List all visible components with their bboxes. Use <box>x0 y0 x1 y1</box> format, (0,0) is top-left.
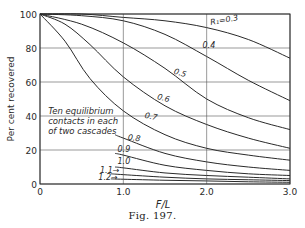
x-tick-label: 1.0 <box>116 187 131 197</box>
curve-R1-0-3 <box>40 14 290 58</box>
curve-0-7 <box>40 14 290 160</box>
y-axis-label: Per cent recovered <box>6 57 16 142</box>
curve-0-8 <box>115 135 290 171</box>
curve-label: 0.9 <box>118 145 131 154</box>
curve-label: 0.5 <box>173 67 188 79</box>
y-tick-label: 40 <box>26 112 38 122</box>
y-tick-label: 20 <box>26 146 38 156</box>
curve-label: 1.0 <box>118 157 131 166</box>
y-tick-label: 60 <box>26 78 38 88</box>
annotation-text: contacts in each <box>48 116 118 126</box>
figure-caption: Fig. 197. <box>0 210 305 221</box>
x-tick-label: 3.0 <box>283 187 298 197</box>
curve-labels: R₁=0.30.40.50.60.70.80.91.01.1→1.2→Ten e… <box>48 13 239 181</box>
y-tick-label: 100 <box>20 10 37 20</box>
annotation-text: of two cascades <box>48 126 117 136</box>
curve-label: 0.4 <box>203 41 216 50</box>
annotation-text: Ten equilibrium <box>48 106 113 116</box>
y-tick-label: 80 <box>26 44 38 54</box>
curve-label: R₁=0.3 <box>210 13 239 27</box>
curve-1-2 <box>111 179 290 182</box>
x-tick-label: 0 <box>37 187 43 197</box>
curve-label: 1.2→ <box>98 173 118 182</box>
curve-label: 0.7 <box>144 111 159 123</box>
x-axis-label: F/L <box>156 199 171 210</box>
curve-label: 0.8 <box>127 133 141 144</box>
curve-0-4 <box>40 14 290 101</box>
chart-canvas: R₁=0.30.40.50.60.70.80.91.01.1→1.2→Ten e… <box>0 0 305 228</box>
x-tick-label: 2.0 <box>200 187 215 197</box>
